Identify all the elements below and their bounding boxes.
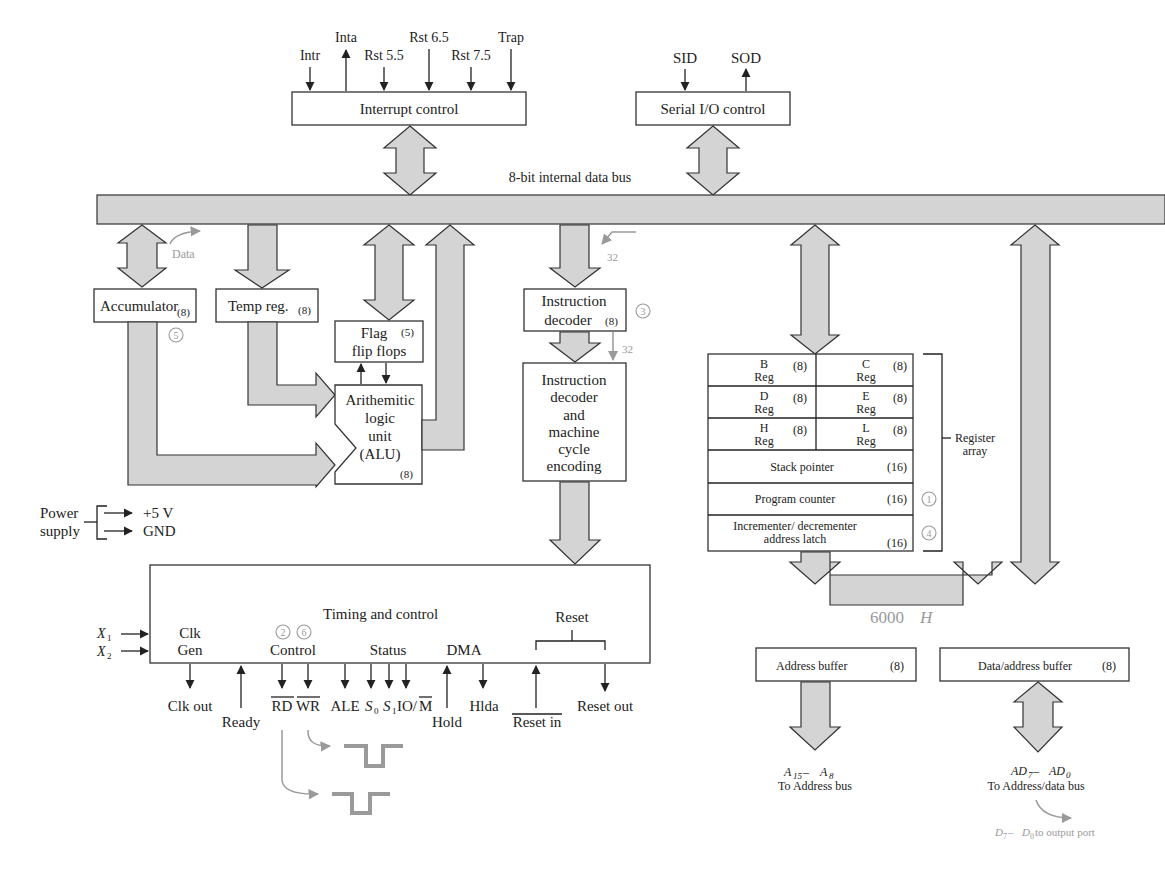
register-c-size: (8) <box>893 359 907 373</box>
flags-bus-double-arrow-icon <box>364 225 414 320</box>
temp-reg-block: Temp reg. (8) <box>216 225 318 322</box>
accumulator-bus-double-arrow-icon <box>118 225 166 287</box>
output-port-sep: – <box>1007 826 1014 838</box>
stack-pointer-size: (16) <box>887 460 907 474</box>
register-array-label-line1: Register <box>955 431 995 445</box>
interrupt-bus-double-arrow-icon <box>384 126 436 195</box>
ready-label: Ready <box>222 714 261 730</box>
wr-wave-arrow-icon <box>308 730 330 746</box>
clk-gen-line2: Gen <box>178 642 203 658</box>
alu-block: Arithemitic logic unit (ALU) (8) <box>335 385 422 484</box>
s1-label: S <box>383 698 391 714</box>
register-e-name: E <box>862 389 869 403</box>
register-array-block: B Reg (8) C Reg (8) D Reg (8) E Reg (8) … <box>708 225 995 551</box>
address-value-suffix: H <box>919 608 934 627</box>
internal-bus-label: 8-bit internal data bus <box>509 170 631 185</box>
s0-sub: 0 <box>374 706 379 716</box>
temp-reg-bus-arrow-icon <box>235 225 289 288</box>
output-port-a-sub: 7 <box>1003 832 1007 841</box>
accumulator-label: Accumulator <box>100 298 178 314</box>
address-out-b: A <box>819 765 828 779</box>
decoder-to-timing-arrow-icon <box>550 482 600 564</box>
register-l-size: (8) <box>893 423 907 437</box>
dma-group-label: DMA <box>446 642 481 658</box>
data-address-buffer-block: Data/address buffer (8) AD 7 – AD 0 To A… <box>940 648 1129 841</box>
interrupt-control-label: Interrupt control <box>360 101 459 117</box>
io-m-bar: M <box>419 698 432 714</box>
instruction-bus-arrow-icon <box>550 225 600 287</box>
temp-to-alu-arrow-icon <box>248 322 335 417</box>
data-annotation-label: Data <box>172 247 195 261</box>
accumulator-step: 5 <box>174 330 179 341</box>
stack-pointer-label: Stack pointer <box>770 460 834 474</box>
register-array-label-line2: array <box>963 444 988 458</box>
address-buffer-output-arrow-icon <box>790 682 840 750</box>
rd-pulse-waveform <box>332 794 390 813</box>
signal-trap-label: Trap <box>498 30 524 45</box>
x2-sub: 2 <box>107 651 112 661</box>
instruction-in-annotation-arrow-icon <box>602 232 636 244</box>
output-port-arrow-icon <box>1036 800 1071 818</box>
instruction-register-step: 3 <box>641 306 646 317</box>
architecture-diagram: Interrupt control Intr Inta Rst 5.5 Rst … <box>0 0 1165 871</box>
register-l-name: L <box>862 421 869 435</box>
data-annotation-arrow-icon <box>170 231 200 244</box>
data-buffer-output-double-arrow-icon <box>1014 682 1062 752</box>
register-c-sub: Reg <box>856 370 875 384</box>
output-port-b-sub: 0 <box>1030 832 1034 841</box>
register-b-name: B <box>760 357 768 371</box>
reset-out-label: Reset out <box>577 698 634 714</box>
signal-rst65-label: Rst 6.5 <box>409 30 449 45</box>
flags-size: (5) <box>401 326 414 339</box>
instruction-decoder-line4: machine <box>549 424 600 440</box>
output-port-a: D <box>994 826 1003 838</box>
clk-out-label: Clk out <box>168 698 213 714</box>
address-buffer-size: (8) <box>890 659 904 673</box>
inc-dec-label-line2: address latch <box>764 532 826 546</box>
alu-label-line1: Arithemitic <box>345 392 414 408</box>
inc-dec-step: 4 <box>927 528 932 539</box>
program-counter-size: (16) <box>887 492 907 506</box>
data-out-destination: To Address/data bus <box>987 779 1084 793</box>
address-buffer-label: Address buffer <box>776 659 847 673</box>
serial-bus-double-arrow-icon <box>687 126 739 195</box>
signal-intr-label: Intr <box>300 48 321 63</box>
power-gnd-label: GND <box>143 523 176 539</box>
data-out-sep: – <box>1032 764 1040 778</box>
internal-data-bus <box>97 195 1165 224</box>
signal-sid-label: SID <box>673 50 697 66</box>
serial-io-label: Serial I/O control <box>661 101 766 117</box>
alu-label-line2: logic <box>365 410 395 426</box>
signal-rst55-label: Rst 5.5 <box>364 48 404 63</box>
s1-sub: 1 <box>392 706 397 716</box>
instruction-decoder-line6: encoding <box>547 458 602 474</box>
signal-sod-label: SOD <box>731 50 761 66</box>
register-b-size: (8) <box>793 359 807 373</box>
instruction-out-annotation: 32 <box>622 343 633 355</box>
data-address-buffer-label: Data/address buffer <box>978 659 1072 673</box>
register-bus-double-arrow-icon <box>791 225 839 354</box>
power-5v-label: +5 V <box>143 505 173 521</box>
address-out-a: A <box>783 765 792 779</box>
inc-dec-size: (16) <box>887 536 907 550</box>
temp-reg-size: (8) <box>298 304 311 317</box>
decoder-arrow-icon <box>550 332 600 362</box>
reset-group-label: Reset <box>555 609 589 625</box>
alu-label-line4: (ALU) <box>360 446 401 463</box>
power-label-line1: Power <box>40 505 78 521</box>
data-out-a: AD <box>1010 764 1027 778</box>
temp-reg-label: Temp reg. <box>228 298 289 314</box>
output-port-b: D <box>1021 826 1030 838</box>
control-step-6: 6 <box>302 627 307 638</box>
serial-io-block: Serial I/O control SID SOD <box>636 50 790 195</box>
address-out-sep: – <box>802 765 810 779</box>
data-address-buffer-size: (8) <box>1102 659 1116 673</box>
alu-to-bus-arrow-icon <box>422 225 474 450</box>
bus-to-data-buffer-double-arrow-icon <box>1011 225 1059 584</box>
clk-gen-line1: Clk <box>179 625 201 641</box>
instruction-decoder-block: 32 Instruction decoder (8) 3 32 Instruct… <box>523 225 650 564</box>
timing-control-label: Timing and control <box>323 606 438 622</box>
control-step-2: 2 <box>281 627 286 638</box>
io-m-prefix: IO/ <box>397 698 418 714</box>
instruction-in-annotation: 32 <box>607 251 618 263</box>
